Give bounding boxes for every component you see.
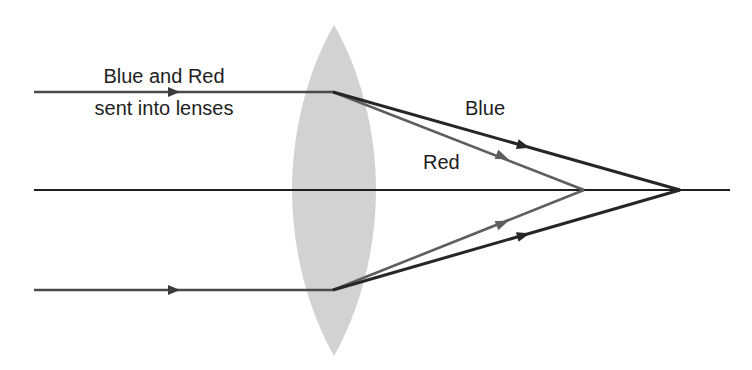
arrow-icon-blue-bottom <box>516 229 531 242</box>
blue-ray-label: Blue <box>465 98 505 118</box>
red-ray-label: Red <box>423 152 460 172</box>
incoming-label-line2: sent into lenses <box>95 98 234 118</box>
arrow-icon-incoming-top <box>168 87 180 97</box>
blue-ray-bottom <box>333 190 680 290</box>
blue-ray-top <box>333 92 680 190</box>
arrow-icon-red-bottom <box>495 216 511 230</box>
incoming-label-line1: Blue and Red <box>103 66 224 86</box>
arrow-icon-incoming-bottom <box>168 285 180 295</box>
chromatic-aberration-diagram <box>0 0 752 370</box>
